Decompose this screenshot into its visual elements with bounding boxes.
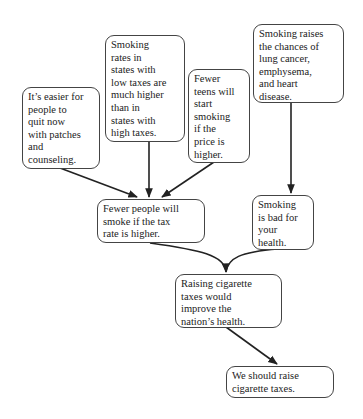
- node-text: disease.: [259, 91, 338, 104]
- node-text: Smoking: [111, 39, 179, 52]
- node-text: Smoking: [258, 199, 308, 212]
- node-text: Fewer: [194, 73, 244, 86]
- node-fewer-teens: Fewer teens will start smoking if the pr…: [188, 69, 250, 163]
- node-text: We should raise: [232, 370, 328, 383]
- node-text: is bad for: [258, 212, 308, 225]
- edge-c-e: [162, 162, 214, 197]
- node-text: your: [258, 224, 308, 237]
- node-text: cigarette taxes.: [232, 383, 328, 396]
- node-smoking-bad: Smoking is bad for your health.: [252, 195, 314, 250]
- node-fewer-people: Fewer people will smoke if the tax rate …: [97, 199, 205, 243]
- node-text: Smoking raises: [259, 28, 338, 41]
- node-text: states with: [111, 115, 179, 128]
- node-text: smoke if the tax: [103, 216, 199, 229]
- node-text: the chances of: [259, 41, 338, 54]
- node-text: It’s easier for: [28, 91, 94, 104]
- node-smoking-rates-states: Smoking rates in states with low taxes a…: [105, 35, 185, 142]
- node-text: teens will: [194, 86, 244, 99]
- node-text: health.: [258, 237, 308, 250]
- node-text: Raising cigarette: [181, 278, 276, 291]
- node-text: much higher: [111, 89, 179, 102]
- node-text: rate is higher.: [103, 228, 199, 241]
- edge-e-g: [150, 243, 226, 272]
- node-text: price is: [194, 136, 244, 149]
- node-text: high taxes.: [111, 127, 179, 140]
- node-text: nation’s health.: [181, 316, 276, 329]
- edge-g-h: [226, 327, 277, 364]
- node-text: with patches: [28, 129, 94, 142]
- node-text: people to: [28, 104, 94, 117]
- node-text: Fewer people will: [103, 203, 199, 216]
- node-text: if the: [194, 123, 244, 136]
- edge-f-g: [226, 249, 278, 272]
- node-raising-taxes-health: Raising cigarette taxes would improve th…: [175, 274, 282, 328]
- node-text: emphysema,: [259, 66, 338, 79]
- node-text: quit now: [28, 116, 94, 129]
- node-smoking-raises-chances: Smoking raises the chances of lung cance…: [253, 24, 344, 103]
- node-easier-to-quit: It’s easier for people to quit now with …: [22, 87, 100, 169]
- node-text: taxes would: [181, 291, 276, 304]
- node-text: smoking: [194, 111, 244, 124]
- node-text: and: [28, 141, 94, 154]
- node-conclusion: We should raise cigarette taxes.: [226, 366, 334, 398]
- node-text: low taxes are: [111, 77, 179, 90]
- node-text: higher.: [194, 149, 244, 162]
- node-text: lung cancer,: [259, 53, 338, 66]
- node-text: and heart: [259, 78, 338, 91]
- edge-a-e: [60, 168, 137, 197]
- node-text: states with: [111, 64, 179, 77]
- node-text: improve the: [181, 303, 276, 316]
- node-text: start: [194, 98, 244, 111]
- node-text: counseling.: [28, 154, 94, 167]
- node-text: rates in: [111, 52, 179, 65]
- node-text: than in: [111, 102, 179, 115]
